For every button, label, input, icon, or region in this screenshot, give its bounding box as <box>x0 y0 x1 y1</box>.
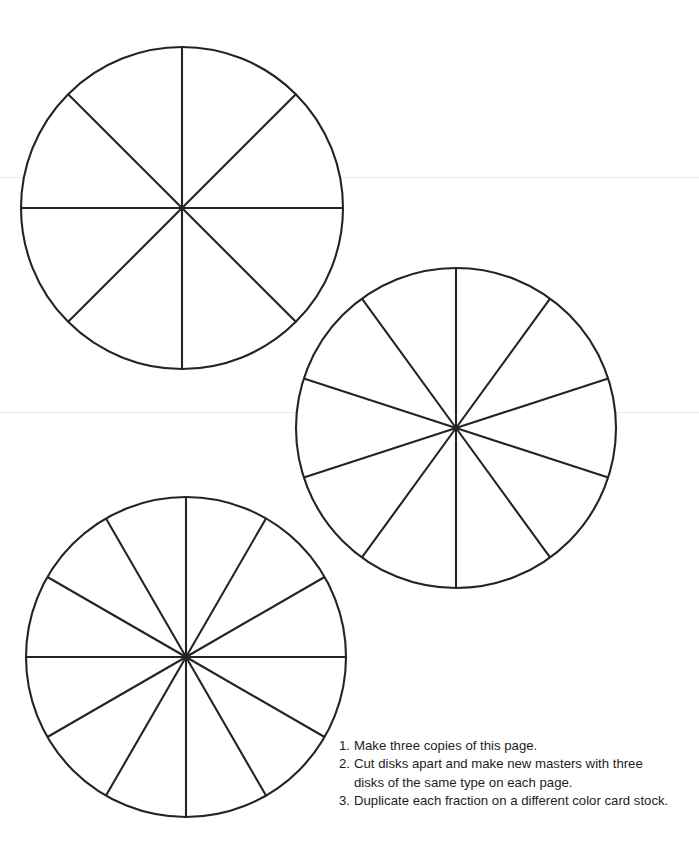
instruction-number: 3. <box>339 792 354 810</box>
instructions-block: 1.Make three copies of this page.2.Cut d… <box>339 737 669 811</box>
instruction-number: 1. <box>339 737 354 755</box>
instruction-text: Duplicate each fraction on a different c… <box>354 792 669 810</box>
instruction-text: Make three copies of this page. <box>354 737 669 755</box>
fraction-disk-twelfths[interactable] <box>23 494 349 820</box>
instruction-item: 3.Duplicate each fraction on a different… <box>339 792 669 810</box>
instruction-list: 1.Make three copies of this page.2.Cut d… <box>339 737 669 810</box>
instruction-item: 1.Make three copies of this page. <box>339 737 669 755</box>
twelfths-disk-graphic <box>23 494 349 820</box>
instruction-number: 2. <box>339 755 354 773</box>
page-canvas: 1.Make three copies of this page.2.Cut d… <box>0 0 699 848</box>
instruction-text: Cut disks apart and make new masters wit… <box>354 755 669 791</box>
instruction-item: 2.Cut disks apart and make new masters w… <box>339 755 669 791</box>
